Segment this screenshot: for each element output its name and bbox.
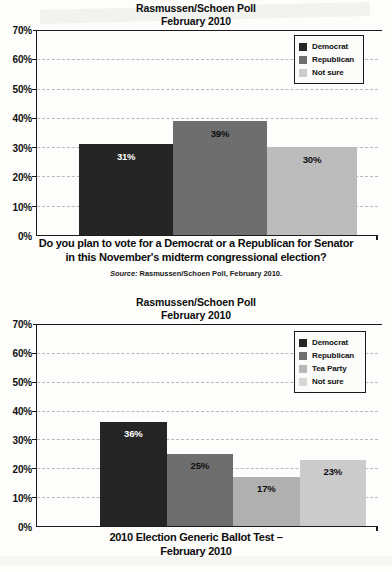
chart1-bar-democrat[interactable]: 31% <box>79 144 173 235</box>
chart2-title: Rasmussen/Schoen Poll February 2010 <box>0 296 392 321</box>
chart2-bar-value-not-sure: 23% <box>324 466 342 477</box>
chart2-legend: Democrat Republican Tea Party Not sure <box>294 331 366 393</box>
legend-swatch-icon <box>299 378 307 386</box>
chart2-ytick-2: 50% <box>13 376 32 387</box>
chart2-caption-line1: 2010 Election Generic Ballot Test – <box>0 530 392 544</box>
legend-swatch-icon <box>299 43 307 51</box>
chart2-bar-value-republican: 25% <box>191 460 209 471</box>
chart2-ytick-6: 10% <box>13 492 32 503</box>
chart2-bar-democrat[interactable]: 36% <box>100 422 166 526</box>
chart1-ytick-6: 10% <box>13 201 32 212</box>
chart2-ytick-1: 60% <box>13 347 32 358</box>
chart1-ytick-3: 40% <box>13 113 32 124</box>
chart2-legend-item-not-sure: Not sure <box>299 375 359 388</box>
chart1-legend-label-not-sure: Not sure <box>312 68 344 77</box>
legend-swatch-icon <box>299 365 307 373</box>
chart1-legend-item-not-sure: Not sure <box>299 66 357 79</box>
source-text: Rasmussen/Schoen Poll, February 2010. <box>140 269 282 278</box>
chart1-bar-value-not-sure: 30% <box>303 154 321 165</box>
chart2-ytick-0: 70% <box>13 319 32 330</box>
chart2-legend-item-tea-party: Tea Party <box>299 362 359 375</box>
source-label: Source: <box>110 269 138 278</box>
chart2-plot-area: 36% 25% 17% 23% Democrat <box>36 324 378 527</box>
legend-swatch-icon <box>299 56 307 64</box>
chart2-bar-value-tea-party: 17% <box>257 483 275 494</box>
chart1-title: Rasmussen/Schoen Poll February 2010 <box>0 0 392 27</box>
chart1-bar-value-republican: 39% <box>211 128 229 139</box>
chart2-legend-label-not-sure: Not sure <box>312 377 344 386</box>
legend-swatch-icon <box>299 352 307 360</box>
chart2-legend-label-democrat: Democrat <box>312 338 348 347</box>
chart2-caption-line2: February 2010 <box>0 544 392 558</box>
chart2-plot-wrap: 70% 60% 50% 40% 30% 20% 10% 0% <box>0 324 392 527</box>
chart1-plot-wrap: 70% 60% 50% 40% 30% 20% 10% 0% <box>0 30 392 236</box>
chart2-title-line2: February 2010 <box>0 309 392 322</box>
chart1-ytick-5: 20% <box>13 172 32 183</box>
chart2-bar-republican[interactable]: 25% <box>167 454 233 526</box>
chart2-y-axis-labels: 70% 60% 50% 40% 30% 20% 10% 0% <box>0 324 32 527</box>
chart1-y-axis-labels: 70% 60% 50% 40% 30% 20% 10% 0% <box>0 30 32 236</box>
chart1-source-note: Source: Rasmussen/Schoen Poll, February … <box>0 269 392 278</box>
chart2-bar-not-sure[interactable]: 23% <box>300 460 366 526</box>
chart1-legend: Democrat Republican Not sure <box>294 35 364 84</box>
chart1-bar-republican[interactable]: 39% <box>173 121 267 235</box>
chart2-title-line1: Rasmussen/Schoen Poll <box>0 296 392 309</box>
chart1-x-caption: Do you plan to vote for a Democrat or a … <box>0 236 392 264</box>
chart1-bar-value-democrat: 31% <box>117 151 135 162</box>
chart2-ytick-3: 40% <box>13 405 32 416</box>
chart2-legend-label-republican: Republican <box>312 351 354 360</box>
chart2-ytick-4: 30% <box>13 434 32 445</box>
legend-swatch-icon <box>299 69 307 77</box>
legend-swatch-icon <box>299 339 307 347</box>
chart2-bar-value-democrat: 36% <box>124 428 142 439</box>
chart1-ytick-1: 60% <box>13 54 32 65</box>
chart1-bar-not-sure[interactable]: 30% <box>267 147 357 235</box>
chart2-ytick-5: 20% <box>13 463 32 474</box>
figure-page: Rasmussen/Schoen Poll February 2010 70% … <box>0 0 392 572</box>
chart1-caption-line2: in this November's midterm congressional… <box>0 250 392 264</box>
chart1-ytick-0: 70% <box>13 25 32 36</box>
chart1-legend-label-republican: Republican <box>312 55 354 64</box>
chart1-ytick-4: 30% <box>13 142 32 153</box>
chart1-legend-item-republican: Republican <box>299 53 357 66</box>
chart1-legend-label-democrat: Democrat <box>312 42 348 51</box>
chart-senate-vote-intent: Rasmussen/Schoen Poll February 2010 70% … <box>0 0 392 236</box>
chart-generic-ballot-test: Rasmussen/Schoen Poll February 2010 70% … <box>0 296 392 527</box>
chart1-legend-item-democrat: Democrat <box>299 40 357 53</box>
chart1-title-line2: February 2010 <box>0 15 392 28</box>
chart1-ytick-2: 50% <box>13 83 32 94</box>
chart1-title-line1: Rasmussen/Schoen Poll <box>0 2 392 15</box>
chart2-x-caption: 2010 Election Generic Ballot Test – Febr… <box>0 530 392 558</box>
chart2-legend-label-tea-party: Tea Party <box>312 364 347 373</box>
chart2-bar-tea-party[interactable]: 17% <box>233 477 299 526</box>
chart2-legend-item-democrat: Democrat <box>299 336 359 349</box>
chart1-caption-line1: Do you plan to vote for a Democrat or a … <box>0 236 392 250</box>
chart2-legend-item-republican: Republican <box>299 349 359 362</box>
chart1-plot-area: 31% 39% 30% Democrat <box>36 30 378 236</box>
